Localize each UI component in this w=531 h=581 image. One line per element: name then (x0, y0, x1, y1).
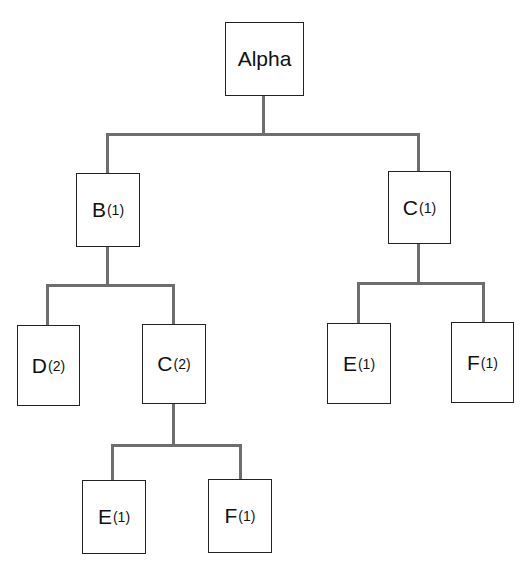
node-label: B (92, 198, 106, 222)
node-f1-bottom: F(1) (208, 479, 272, 553)
edge-b1-stem (106, 246, 109, 286)
node-label: F (467, 351, 480, 375)
edge-to-f1-bottom (239, 444, 242, 480)
node-subscript: (2) (48, 358, 65, 374)
edge-to-e1-right (357, 282, 360, 324)
edge-to-b1 (106, 133, 109, 174)
node-subscript: (2) (174, 356, 191, 372)
node-label: D (32, 354, 47, 378)
edge-to-c2 (172, 284, 175, 325)
node-subscript: (1) (419, 200, 436, 216)
node-subscript: (1) (107, 202, 124, 218)
node-f1-right: F(1) (451, 322, 514, 403)
edge-c1-stem (417, 243, 420, 285)
node-d2: D(2) (17, 325, 80, 406)
node-label: C (157, 352, 172, 376)
node-label: C (403, 196, 418, 220)
node-e1-right: E(1) (327, 323, 391, 404)
edge-c2-stem (172, 403, 175, 447)
node-label: E (343, 352, 357, 376)
edge-to-f1-right (482, 282, 485, 323)
edge-to-d2 (46, 284, 49, 326)
edge-to-c1 (417, 133, 420, 172)
node-subscript: (1) (113, 509, 130, 525)
edge-to-e1-bottom (111, 444, 114, 481)
node-label: Alpha (238, 47, 292, 71)
node-c1: C(1) (388, 171, 451, 244)
edge-alpha-stem (262, 95, 265, 136)
edge-b1-bar (46, 284, 175, 287)
edge-c2-bar (111, 444, 242, 447)
node-c2: C(2) (142, 324, 206, 404)
node-subscript: (1) (358, 356, 375, 372)
node-alpha: Alpha (225, 22, 304, 96)
edge-alpha-bar (106, 133, 420, 136)
node-subscript: (1) (238, 508, 255, 524)
node-subscript: (1) (481, 355, 498, 371)
edge-c1-bar (357, 282, 485, 285)
node-b1: B(1) (76, 173, 140, 247)
node-e1-bottom: E(1) (82, 480, 146, 554)
node-label: F (225, 504, 238, 528)
node-label: E (98, 505, 112, 529)
